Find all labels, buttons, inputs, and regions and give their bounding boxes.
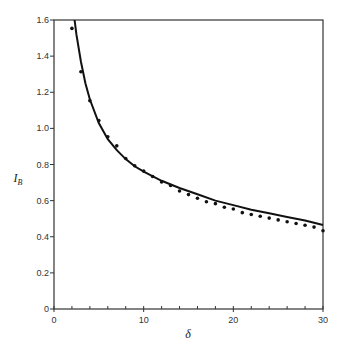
data-point	[88, 99, 92, 103]
data-point	[79, 70, 83, 74]
chart: 00.20.40.60.81.01.21.41.6 0102030 δ IB	[0, 0, 344, 350]
x-tick-label: 0	[51, 315, 56, 325]
fitted-curve	[75, 20, 323, 225]
y-tick-label: 0.8	[36, 160, 49, 170]
data-point	[312, 225, 316, 229]
data-point	[169, 184, 173, 188]
y-axis-ticks: 00.20.40.60.81.01.21.41.6	[36, 15, 54, 314]
plot-frame	[54, 20, 323, 309]
data-point	[178, 189, 182, 193]
x-tick-label: 20	[228, 315, 238, 325]
data-point	[276, 218, 280, 222]
y-tick-label: 0	[44, 304, 49, 314]
y-tick-label: 0.2	[36, 268, 49, 278]
data-point	[187, 193, 191, 197]
y-tick-label: 0.4	[36, 232, 49, 242]
y-tick-label: 0.6	[36, 196, 49, 206]
data-point	[294, 222, 298, 226]
x-tick-label: 30	[318, 315, 328, 325]
x-tick-label: 10	[139, 315, 149, 325]
data-points	[70, 27, 325, 233]
plot-axes	[54, 20, 323, 309]
data-point	[196, 196, 200, 200]
data-point	[267, 216, 271, 220]
y-tick-label: 1.0	[36, 123, 49, 133]
y-tick-label: 1.4	[36, 51, 49, 61]
data-point	[321, 229, 325, 233]
data-point	[160, 180, 164, 184]
data-point	[133, 164, 137, 168]
data-point	[258, 214, 262, 218]
data-point	[214, 202, 218, 206]
data-point	[241, 211, 245, 215]
x-axis-label: δ	[185, 327, 191, 341]
data-point	[124, 157, 128, 161]
data-point	[205, 200, 209, 204]
data-point	[285, 220, 289, 224]
data-point	[106, 135, 110, 139]
data-point	[303, 224, 307, 228]
data-point	[97, 119, 101, 123]
y-tick-label: 1.6	[36, 15, 49, 25]
data-point	[115, 144, 119, 148]
data-point	[142, 169, 146, 173]
y-axis-label: IB	[13, 171, 23, 187]
y-tick-label: 1.2	[36, 87, 49, 97]
data-point	[223, 205, 227, 209]
data-point	[151, 175, 155, 179]
data-point	[70, 27, 74, 31]
data-point	[249, 213, 253, 217]
data-point	[232, 207, 236, 211]
